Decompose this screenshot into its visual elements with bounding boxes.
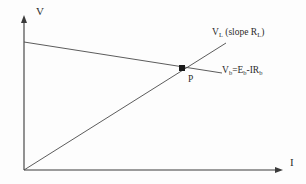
load-line-curve: [24, 43, 226, 170]
x-axis-label: I: [290, 157, 294, 168]
y-axis-arrowhead: [21, 15, 27, 23]
operating-point-label: P: [188, 75, 193, 85]
battery-line-label: Vb=Eb-IRb: [222, 66, 262, 76]
battery-line-label-prefix: V: [222, 65, 229, 75]
load-line-label-prefix-sub: L: [219, 31, 223, 38]
battery-line-label-tail: -IR: [247, 65, 260, 75]
load-line-label-prefix: V: [212, 27, 219, 37]
load-line-diagram: V I VL (slope RL) Vb=Eb-IRb P: [0, 0, 306, 184]
load-line-label-suffix: ): [261, 27, 264, 37]
x-axis: [24, 167, 283, 173]
load-line-label: VL (slope RL): [212, 28, 264, 38]
operating-point-marker: [179, 65, 185, 71]
battery-line-label-middle: =E: [232, 65, 243, 75]
y-axis: [21, 15, 27, 170]
battery-line-label-tail-sub: b: [259, 69, 262, 76]
load-line-label-middle-sub: L: [257, 31, 261, 38]
battery-line-label-middle-sub: b: [243, 69, 246, 76]
battery-line-curve: [24, 42, 222, 73]
y-axis-label: V: [36, 6, 44, 17]
load-line-label-middle: (slope R: [223, 27, 257, 37]
battery-line-label-prefix-sub: b: [229, 69, 232, 76]
x-axis-arrowhead: [275, 167, 283, 173]
